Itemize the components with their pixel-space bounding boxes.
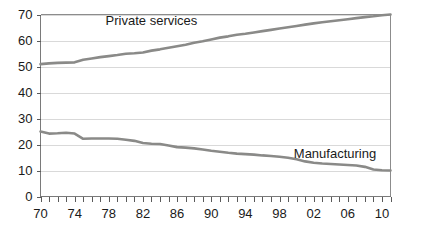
- y-tick-label-20: 20: [18, 137, 32, 152]
- y-tick-label-30: 30: [18, 111, 32, 126]
- y-tick-label-0: 0: [25, 189, 32, 204]
- annotation-manufacturing: Manufacturing: [294, 146, 376, 161]
- x-tick-label-94: 94: [238, 206, 252, 221]
- chart-canvas: 010203040506070 7074788286909498020610 P…: [0, 0, 421, 231]
- x-tick-label-98: 98: [272, 206, 286, 221]
- y-tick-label-50: 50: [18, 59, 32, 74]
- x-tick-label-02: 02: [306, 206, 320, 221]
- annotation-private-services: Private services: [106, 13, 198, 28]
- x-tick-label-90: 90: [204, 206, 218, 221]
- x-tick-label-70: 70: [33, 206, 47, 221]
- x-tick-label-86: 86: [170, 206, 184, 221]
- y-tick-label-60: 60: [18, 33, 32, 48]
- y-tick-label-10: 10: [18, 163, 32, 178]
- y-tick-label-40: 40: [18, 85, 32, 100]
- line-chart: 010203040506070 7074788286909498020610 P…: [0, 0, 421, 231]
- x-tick-label-74: 74: [67, 206, 81, 221]
- x-tick-label-78: 78: [102, 206, 116, 221]
- y-tick-label-70: 70: [18, 7, 32, 22]
- x-tick-label-06: 06: [341, 206, 355, 221]
- x-tick-label-82: 82: [136, 206, 150, 221]
- x-tick-label-10: 10: [375, 206, 389, 221]
